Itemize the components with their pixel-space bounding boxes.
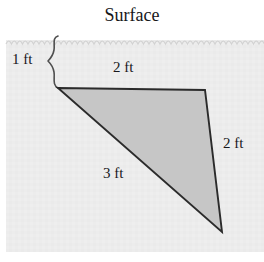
figure-title: Surface [0,6,264,24]
top-side-label: 2 ft [113,60,133,75]
depth-label: 1 ft [12,52,32,67]
hypotenuse-label: 3 ft [103,166,123,181]
right-side-label: 2 ft [223,136,243,151]
figure-canvas [0,0,264,262]
surface-triangle-figure: Surface 1 ft 2 ft 2 ft 3 ft [0,0,264,262]
